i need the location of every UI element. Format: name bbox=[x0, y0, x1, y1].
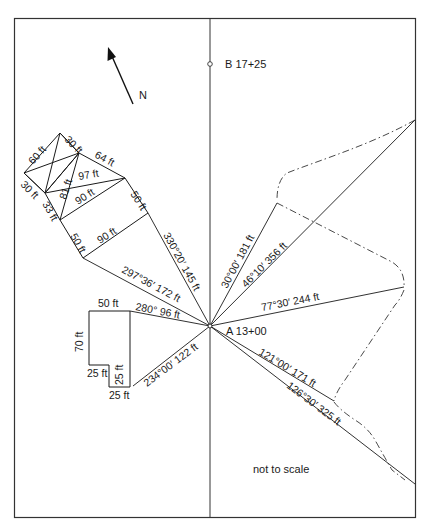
north-arrow-icon bbox=[108, 47, 117, 61]
svg-text:97 ft: 97 ft bbox=[77, 167, 99, 182]
scale-note: not to scale bbox=[253, 463, 309, 475]
north-label: N bbox=[139, 89, 147, 101]
building-2-dimensions: 50 ft 70 ft 25 ft 25 ft 25 ft bbox=[73, 297, 130, 401]
building-1-dimensions: 60 ft 30 ft 64 ft 30 ft 81 ft 97 ft 90 f… bbox=[19, 133, 150, 255]
svg-text:60 ft: 60 ft bbox=[26, 143, 49, 166]
station-b-label: B 17+25 bbox=[225, 58, 266, 70]
svg-text:81 ft: 81 ft bbox=[56, 177, 74, 200]
svg-text:280° 96 ft: 280° 96 ft bbox=[135, 300, 182, 320]
svg-text:90 ft: 90 ft bbox=[95, 224, 119, 245]
station-a-marker bbox=[208, 324, 212, 328]
svg-text:25 ft: 25 ft bbox=[113, 364, 125, 385]
svg-text:121°00′ 171 ft: 121°00′ 171 ft bbox=[257, 345, 319, 389]
north-arrow: N bbox=[108, 47, 148, 104]
svg-text:70 ft: 70 ft bbox=[73, 331, 85, 352]
radial-lines bbox=[83, 120, 415, 484]
svg-text:234°00′ 122 ft: 234°00′ 122 ft bbox=[141, 340, 200, 388]
station-b-marker bbox=[208, 62, 213, 67]
svg-text:30 ft: 30 ft bbox=[63, 133, 86, 156]
svg-text:25 ft: 25 ft bbox=[109, 389, 130, 401]
svg-text:50 ft: 50 ft bbox=[98, 297, 119, 309]
station-a-label: A 13+00 bbox=[226, 325, 267, 337]
survey-diagram: B 17+25 N 60 ft 30 ft 64 ft 30 ft 81 ft … bbox=[0, 0, 428, 528]
svg-text:33 ft: 33 ft bbox=[40, 199, 61, 223]
svg-text:330°20′ 145 ft: 330°20′ 145 ft bbox=[161, 230, 203, 292]
svg-text:90 ft: 90 ft bbox=[73, 185, 97, 206]
svg-text:50 ft: 50 ft bbox=[128, 189, 149, 213]
svg-text:25 ft: 25 ft bbox=[87, 367, 108, 379]
diagram-frame bbox=[15, 19, 416, 518]
svg-text:64 ft: 64 ft bbox=[93, 148, 117, 168]
svg-text:30 ft: 30 ft bbox=[19, 178, 42, 201]
svg-text:50 ft: 50 ft bbox=[68, 231, 89, 255]
svg-text:297°36′ 172 ft: 297°36′ 172 ft bbox=[120, 263, 183, 304]
